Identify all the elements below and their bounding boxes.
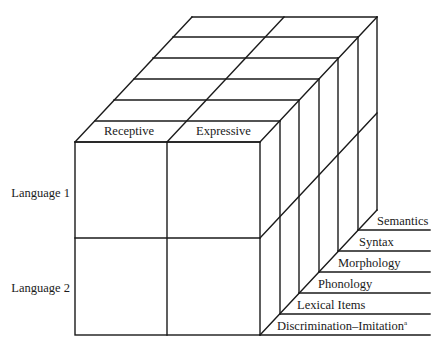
cube-diagram — [0, 0, 446, 350]
depth-label-lexical-items: Lexical Items — [297, 299, 365, 312]
row-label-language-1: Language 1 — [0, 187, 70, 200]
column-label-expressive: Expressive — [196, 125, 251, 138]
depth-label-semantics: Semantics — [377, 215, 428, 228]
depth-label-discrimination-imitation: Discrimination–Imitationa — [277, 320, 407, 333]
depth-label-syntax: Syntax — [359, 236, 394, 249]
depth-label-morphology: Morphology — [338, 257, 401, 270]
front-face — [75, 142, 260, 335]
row-label-language-2: Language 2 — [0, 282, 70, 295]
depth-label-text: Discrimination–Imitation — [277, 319, 404, 333]
column-label-receptive: Receptive — [104, 125, 154, 138]
depth-label-phonology: Phonology — [318, 278, 372, 291]
footnote-marker: a — [404, 319, 407, 327]
